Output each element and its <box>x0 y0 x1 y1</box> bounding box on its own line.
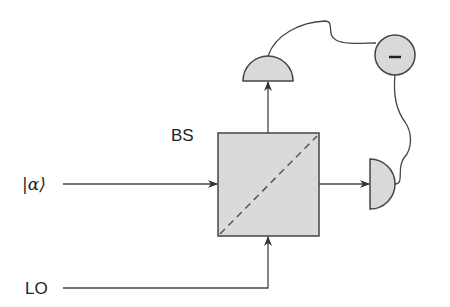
lo-beam <box>63 237 268 288</box>
detector-right <box>370 159 395 209</box>
wire-right-detector <box>394 75 410 184</box>
subtractor-circle <box>375 35 415 75</box>
homodyne-diagram: |α⟩ LO BS <box>0 0 450 307</box>
wire-top-detector <box>268 21 376 56</box>
lo-label: LO <box>25 279 48 298</box>
signal-label: |α⟩ <box>22 174 46 194</box>
detector-top <box>243 56 293 81</box>
beam-splitter-label: BS <box>171 126 194 145</box>
